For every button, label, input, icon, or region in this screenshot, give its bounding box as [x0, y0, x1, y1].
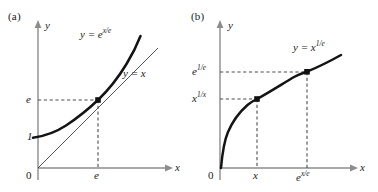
- x-tick-label-e-pow-x-over-e-b: ex/e: [296, 170, 310, 183]
- y-tick-label-e-pow-1-over-e-b: e1/e: [192, 64, 206, 77]
- marked-point-upper-b: [304, 69, 310, 75]
- x-tick-exp-exponent-b: x/e: [301, 169, 310, 178]
- marked-point-lower-b: [254, 96, 260, 102]
- tangency-point-marker-a: [95, 97, 101, 103]
- x-axis-arrow-b: [350, 165, 358, 172]
- y-axis-arrow-a: [35, 20, 42, 28]
- curve-label-exponential-base-a: y = e: [80, 28, 103, 40]
- curve-label-power-b: y = x1/e: [293, 40, 325, 53]
- x-axis-label-a: x: [175, 162, 180, 173]
- x-tick-label-e-a: e: [94, 170, 99, 181]
- curve-label-identity-a: y = x: [123, 68, 146, 79]
- y-tick-label-x-pow-1-over-x-b: x1/x: [192, 91, 206, 104]
- panel-tag-a: (a): [8, 10, 21, 22]
- panel-b: (b) y x 0 e1/e x1/x x ex/e y = x1/e: [189, 0, 378, 192]
- line-y-equals-x: [38, 48, 158, 168]
- panel-b-plot: [189, 0, 378, 192]
- axes-group-b: [217, 20, 358, 180]
- origin-label-a: 0: [26, 170, 32, 181]
- curve-label-exponential-a: y = ex/e: [80, 27, 111, 40]
- y-axis-label-a: y: [45, 20, 50, 31]
- curve-y-equals-e-pow-x-over-e: [33, 36, 141, 138]
- panel-tag-b: (b): [191, 10, 204, 22]
- y-axis-label-b: y: [228, 20, 233, 31]
- y-tick-upper-exponent-b: 1/e: [197, 63, 206, 72]
- y-axis-arrow-b: [217, 20, 224, 28]
- origin-label-b: 0: [208, 170, 214, 181]
- figure-root: (a) y x 0 e 1 e y = ex/e y = x: [0, 0, 378, 192]
- curve-label-power-base-b: y = x: [293, 41, 316, 53]
- axes-group-a: [35, 20, 173, 180]
- panel-a: (a) y x 0 e 1 e y = ex/e y = x: [0, 0, 189, 192]
- x-axis-arrow-a: [165, 165, 173, 172]
- x-tick-label-x-b: x: [253, 170, 258, 181]
- curve-label-exponential-exponent-a: x/e: [103, 26, 112, 35]
- y-tick-lower-exponent-b: 1/x: [197, 90, 206, 99]
- y-tick-label-e-a: e: [26, 94, 31, 105]
- x-axis-label-b: x: [360, 162, 365, 173]
- y-tick-label-1-a: 1: [27, 131, 33, 142]
- curve-label-power-exponent-b: 1/e: [316, 39, 325, 48]
